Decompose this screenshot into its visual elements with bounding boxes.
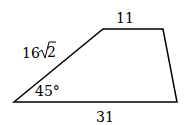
left-side-label-radicand: 2 xyxy=(47,44,56,60)
angle-label: 45° xyxy=(35,83,60,99)
bottom-base-label: 31 xyxy=(96,109,114,125)
trapezoid-diagram: 11 31 16 2 45° xyxy=(0,0,185,125)
top-base-label: 11 xyxy=(116,10,134,26)
left-side-label-coef: 16 xyxy=(22,45,40,61)
